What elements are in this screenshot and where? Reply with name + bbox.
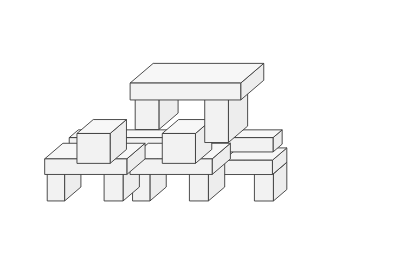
block-face-front (189, 174, 208, 201)
block-face-top (130, 63, 264, 83)
block-face-front (135, 98, 159, 129)
block-face-front (77, 133, 110, 163)
block-face-front (130, 83, 241, 100)
block-figure-root (0, 0, 399, 263)
isometric-block-diagram (0, 0, 399, 263)
block-top-beam (130, 63, 264, 100)
block-face-front (223, 160, 272, 174)
block-face-front (162, 133, 195, 163)
block-face-front (104, 174, 123, 201)
block-face-front (205, 98, 229, 142)
block-face-front (47, 174, 64, 201)
block-face-front (254, 174, 273, 201)
